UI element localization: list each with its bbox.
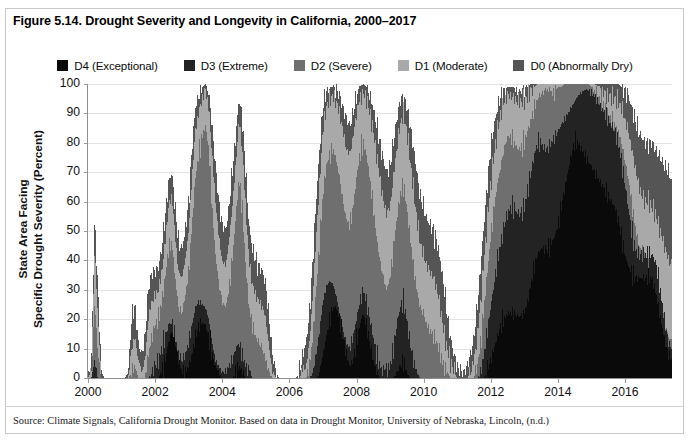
x-tick-mark bbox=[88, 379, 89, 383]
figure-container: Figure 5.14. Drought Severity and Longev… bbox=[0, 0, 690, 441]
x-tick-mark bbox=[222, 379, 223, 383]
source-note: Source: Climate Signals, California Drou… bbox=[13, 415, 549, 426]
x-axis-line bbox=[88, 378, 672, 379]
y-tick-label: 10 bbox=[48, 343, 80, 353]
x-tick-label: 2000 bbox=[68, 385, 108, 399]
legend-swatch-d3-icon bbox=[184, 60, 195, 71]
chart-legend: D4 (Exceptional)D3 (Extreme)D2 (Severe)D… bbox=[0, 55, 690, 75]
x-tick-label: 2002 bbox=[135, 385, 175, 399]
y-tick-label: 20 bbox=[48, 313, 80, 323]
legend-item-d4: D4 (Exceptional) bbox=[57, 59, 157, 72]
x-tick-label: 2006 bbox=[269, 385, 309, 399]
legend-swatch-d4-icon bbox=[57, 60, 68, 71]
figure-title: Figure 5.14. Drought Severity and Longev… bbox=[13, 14, 416, 28]
x-tick-label: 2012 bbox=[471, 385, 511, 399]
legend-item-d0: D0 (Abnormally Dry) bbox=[513, 59, 632, 72]
legend-label-d0: D0 (Abnormally Dry) bbox=[530, 59, 632, 72]
legend-swatch-d1-icon bbox=[398, 60, 409, 71]
x-tick-mark bbox=[625, 379, 626, 383]
legend-label-d3: D3 (Extreme) bbox=[201, 59, 268, 72]
y-tick-label: 80 bbox=[48, 137, 80, 147]
legend-swatch-d0-icon bbox=[513, 60, 524, 71]
y-tick-label: 70 bbox=[48, 166, 80, 176]
x-tick-label: 2010 bbox=[404, 385, 444, 399]
plot-area bbox=[0, 80, 690, 380]
source-divider bbox=[6, 406, 683, 407]
x-tick-mark bbox=[155, 379, 156, 383]
y-axis-line bbox=[87, 84, 88, 378]
legend-item-d3: D3 (Extreme) bbox=[184, 59, 268, 72]
y-tick-label: 0 bbox=[48, 372, 80, 382]
y-tick-label: 50 bbox=[48, 225, 80, 235]
y-tick-label: 40 bbox=[48, 254, 80, 264]
legend-label-d4: D4 (Exceptional) bbox=[74, 59, 157, 72]
legend-label-d1: D1 (Moderate) bbox=[415, 59, 488, 72]
legend-swatch-d2-icon bbox=[294, 60, 305, 71]
x-tick-mark bbox=[424, 379, 425, 383]
drought-area-chart bbox=[0, 80, 690, 385]
legend-item-d1: D1 (Moderate) bbox=[398, 59, 488, 72]
x-tick-label: 2008 bbox=[337, 385, 377, 399]
y-tick-label: 90 bbox=[48, 107, 80, 117]
y-tick-label: 30 bbox=[48, 284, 80, 294]
legend-label-d2: D2 (Severe) bbox=[311, 59, 372, 72]
x-tick-label: 2016 bbox=[605, 385, 645, 399]
legend-item-d2: D2 (Severe) bbox=[294, 59, 372, 72]
x-tick-label: 2004 bbox=[202, 385, 242, 399]
x-tick-mark bbox=[289, 379, 290, 383]
y-tick-label: 100 bbox=[48, 78, 80, 88]
x-tick-mark bbox=[558, 379, 559, 383]
x-tick-mark bbox=[491, 379, 492, 383]
y-tick-label: 60 bbox=[48, 196, 80, 206]
x-tick-mark bbox=[357, 379, 358, 383]
x-tick-label: 2014 bbox=[538, 385, 578, 399]
